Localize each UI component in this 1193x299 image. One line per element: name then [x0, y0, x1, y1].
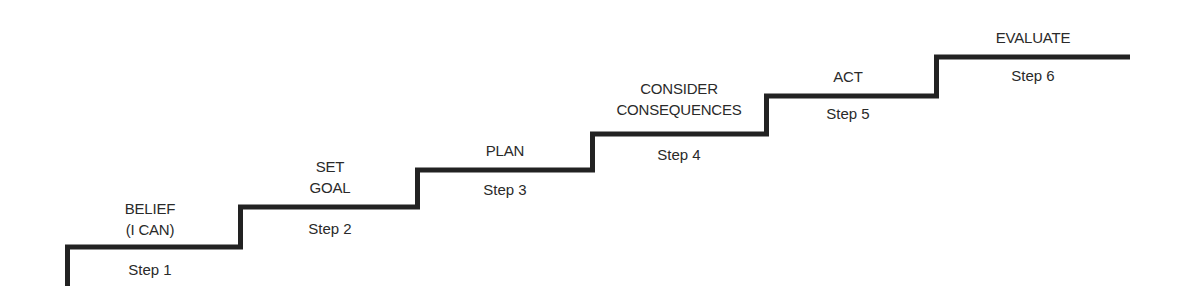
step-6-title-line-1: EVALUATE [996, 27, 1071, 48]
step-1-title-line-2: (I CAN) [125, 219, 176, 240]
step-2-number: Step 2 [308, 219, 351, 239]
step-5-title: ACT [833, 66, 862, 87]
step-2-title-line-1: SET [310, 156, 351, 177]
step-5-title-line-1: ACT [833, 66, 862, 87]
step-4-number: Step 4 [657, 145, 700, 165]
step-6-number: Step 6 [1011, 66, 1054, 86]
step-4-title-line-1: CONSIDER [616, 78, 741, 99]
step-4-title: CONSIDER CONSEQUENCES [616, 78, 741, 120]
step-1-title: BELIEF (I CAN) [125, 198, 176, 240]
step-3-number: Step 3 [483, 180, 526, 200]
step-1-title-line-1: BELIEF [125, 198, 176, 219]
step-5-number: Step 5 [826, 104, 869, 124]
step-3-title-line-1: PLAN [486, 140, 524, 161]
step-2-title: SET GOAL [310, 156, 351, 198]
step-4-title-line-2: CONSEQUENCES [616, 99, 741, 120]
step-3-title: PLAN [486, 140, 524, 161]
step-1-number: Step 1 [128, 260, 171, 280]
step-6-title: EVALUATE [996, 27, 1071, 48]
step-2-title-line-2: GOAL [310, 177, 351, 198]
